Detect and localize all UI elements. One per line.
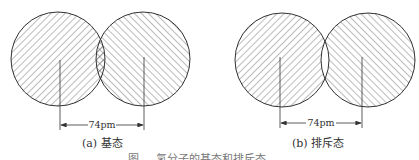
panel-b-caption: (b) 排斥态 bbox=[292, 134, 344, 150]
panel-a-ground-state: 74pm bbox=[11, 12, 190, 131]
diagram-canvas: 74pm 74pm bbox=[0, 0, 419, 160]
panel-b-repulsive-state: 74pm bbox=[235, 13, 415, 129]
figure-caption: 图 ... 氢分子的基态和排斥态 bbox=[128, 150, 266, 160]
distance-label: 74pm bbox=[88, 119, 115, 130]
panel-a-caption: (a) 基态 bbox=[82, 134, 123, 150]
distance-label: 74pm bbox=[307, 117, 334, 128]
